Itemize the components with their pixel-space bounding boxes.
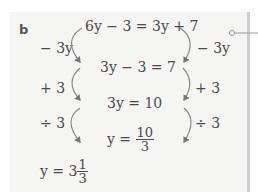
right-arrow-2-icon — [183, 68, 190, 100]
right-arrow-3-icon — [184, 108, 191, 142]
right-arrow-1-icon — [180, 28, 190, 62]
connector-dot-icon — [230, 31, 235, 36]
left-arrow-3-icon — [71, 108, 80, 142]
curved-arrows — [0, 0, 258, 192]
left-arrow-1-icon — [71, 28, 82, 62]
left-arrow-2-icon — [72, 68, 80, 100]
